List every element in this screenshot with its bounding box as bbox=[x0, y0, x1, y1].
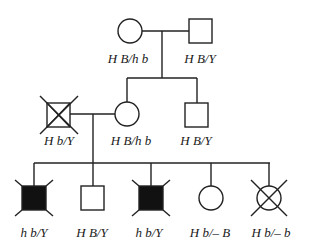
g3-1-symbol bbox=[22, 186, 46, 210]
g3-2-symbol bbox=[81, 186, 104, 210]
g1-male-genotype: H B/Y bbox=[184, 52, 215, 66]
g3-5-genotype: H b/– b bbox=[252, 226, 291, 240]
g2-male-genotype: H B/Y bbox=[180, 134, 211, 148]
g3-3-corner-bl bbox=[132, 210, 139, 216]
g3-1-corner-br bbox=[46, 210, 53, 216]
g3-4-genotype: H b/– B bbox=[190, 226, 230, 240]
g1-female-genotype: H B/h b bbox=[108, 52, 148, 66]
g3-3-corner-tr bbox=[163, 180, 170, 186]
g3-1-genotype: h b/Y bbox=[20, 226, 47, 240]
g3-4-symbol bbox=[199, 186, 223, 210]
g2-female-symbol bbox=[115, 102, 139, 126]
g3-1-corner-bl bbox=[15, 210, 22, 216]
g2-spouse-genotype: H b/Y bbox=[44, 134, 74, 148]
pedigree-chart bbox=[0, 0, 309, 247]
g3-1-corner-tr bbox=[46, 180, 53, 186]
g3-3-corner-br bbox=[163, 210, 170, 216]
g3-1-corner-tl bbox=[15, 180, 22, 186]
g2-female-genotype: H B/h b bbox=[111, 134, 151, 148]
g3-3-genotype: h b/Y bbox=[135, 226, 162, 240]
g3-2-genotype: H B/Y bbox=[76, 226, 107, 240]
g2-male-symbol bbox=[185, 103, 208, 127]
g1-male-symbol bbox=[189, 19, 212, 43]
g3-3-symbol bbox=[139, 186, 163, 210]
g1-female-symbol bbox=[118, 19, 142, 43]
g3-3-corner-tl bbox=[132, 180, 139, 186]
